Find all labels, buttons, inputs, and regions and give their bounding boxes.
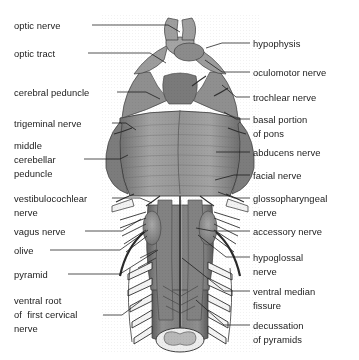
label-hypoglossal-nerve-line-1: hypoglossal <box>253 251 303 265</box>
label-pyramid-line-1: pyramid <box>14 268 48 282</box>
label-glossopharyngeal-nerve-line-2: nerve <box>253 206 327 220</box>
label-olive: olive <box>14 244 34 258</box>
label-basal-portion-of-pons: basal portionof pons <box>253 113 307 141</box>
label-hypophysis: hypophysis <box>253 37 300 51</box>
label-middle-cerebellar-peduncle: middlecerebellarpeduncle <box>14 139 56 181</box>
label-trochlear-nerve-line-1: trochlear nerve <box>253 91 316 105</box>
label-pyramid: pyramid <box>14 268 48 282</box>
label-vagus-nerve-line-1: vagus nerve <box>14 225 66 239</box>
label-vestibulocochlear-nerve-line-2: nerve <box>14 206 87 220</box>
label-optic-tract: optic tract <box>14 47 55 61</box>
label-vagus-nerve: vagus nerve <box>14 225 66 239</box>
label-decussation-of-pyramids-line-1: decussation <box>253 319 304 333</box>
label-middle-cerebellar-peduncle-line-2: cerebellar <box>14 153 56 167</box>
label-middle-cerebellar-peduncle-line-3: peduncle <box>14 167 56 181</box>
label-decussation-of-pyramids: decussationof pyramids <box>253 319 304 347</box>
label-trochlear-nerve: trochlear nerve <box>253 91 316 105</box>
anatomy-illustration <box>100 14 260 354</box>
label-basal-portion-of-pons-line-1: basal portion <box>253 113 307 127</box>
label-decussation-of-pyramids-line-2: of pyramids <box>253 333 304 347</box>
label-abducens-nerve: abducens nerve <box>253 146 320 160</box>
label-optic-nerve-line-1: optic nerve <box>14 19 60 33</box>
label-ventral-median-fissure-line-1: ventral median <box>253 285 315 299</box>
texture-overlay <box>100 14 260 354</box>
label-oculomotor-nerve: oculomotor nerve <box>253 66 326 80</box>
label-glossopharyngeal-nerve: glossopharyngealnerve <box>253 192 327 220</box>
label-glossopharyngeal-nerve-line-1: glossopharyngeal <box>253 192 327 206</box>
label-vestibulocochlear-nerve: vestibulocochlearnerve <box>14 192 87 220</box>
label-olive-line-1: olive <box>14 244 34 258</box>
label-abducens-nerve-line-1: abducens nerve <box>253 146 320 160</box>
label-hypophysis-line-1: hypophysis <box>253 37 300 51</box>
label-ventral-median-fissure: ventral medianfissure <box>253 285 315 313</box>
label-ventral-root-first-cervical-nerve-line-3: nerve <box>14 322 77 336</box>
label-middle-cerebellar-peduncle-line-1: middle <box>14 139 56 153</box>
label-trigeminal-nerve-line-1: trigeminal nerve <box>14 117 82 131</box>
label-ventral-root-first-cervical-nerve: ventral rootof first cervicalnerve <box>14 294 77 336</box>
label-ventral-root-first-cervical-nerve-line-2: of first cervical <box>14 308 77 322</box>
label-oculomotor-nerve-line-1: oculomotor nerve <box>253 66 326 80</box>
label-facial-nerve: facial nerve <box>253 169 302 183</box>
label-hypoglossal-nerve-line-2: nerve <box>253 265 303 279</box>
label-cerebral-peduncle-line-1: cerebral peduncle <box>14 86 89 100</box>
label-cerebral-peduncle: cerebral peduncle <box>14 86 89 100</box>
label-accessory-nerve-line-1: accessory nerve <box>253 225 322 239</box>
label-vestibulocochlear-nerve-line-1: vestibulocochlear <box>14 192 87 206</box>
label-facial-nerve-line-1: facial nerve <box>253 169 302 183</box>
label-trigeminal-nerve: trigeminal nerve <box>14 117 82 131</box>
label-optic-tract-line-1: optic tract <box>14 47 55 61</box>
label-optic-nerve: optic nerve <box>14 19 60 33</box>
label-accessory-nerve: accessory nerve <box>253 225 322 239</box>
label-hypoglossal-nerve: hypoglossalnerve <box>253 251 303 279</box>
label-basal-portion-of-pons-line-2: of pons <box>253 127 307 141</box>
label-ventral-median-fissure-line-2: fissure <box>253 299 315 313</box>
label-ventral-root-first-cervical-nerve-line-1: ventral root <box>14 294 77 308</box>
